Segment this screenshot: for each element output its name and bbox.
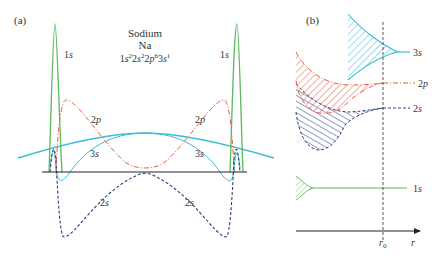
band-label-3s: 3s [413, 47, 422, 58]
element-name: Sodium [128, 27, 163, 39]
band-label-2p: 2p [418, 78, 428, 89]
element-symbol: Na [139, 39, 152, 51]
band-3s [348, 14, 398, 80]
sodium-orbital-diagram: (a) Sodium Na 1s22s22p63s1 1s 1s 2p 2p 3… [0, 0, 442, 262]
band-label-2s: 2s [413, 103, 422, 114]
label-3s-right: 3s [195, 148, 204, 159]
panel-b: (b) 3s 2p 2s 1s r0 r [296, 14, 428, 250]
label-2s-left: 2s [100, 197, 109, 208]
curve-2p [56, 100, 234, 172]
r-axis-label: r [411, 237, 415, 248]
label-2p-right: 2p [195, 114, 205, 125]
panel-b-label: (b) [306, 14, 319, 27]
band-1s [296, 176, 313, 200]
label-1s-right: 1s [220, 49, 229, 60]
label-1s-left: 1s [64, 49, 73, 60]
electron-configuration: 1s22s22p63s1 [120, 52, 171, 64]
panel-a: (a) Sodium Na 1s22s22p63s1 1s 1s 2p 2p 3… [14, 14, 274, 237]
label-2p-left: 2p [91, 114, 101, 125]
label-2s-right: 2s [185, 197, 194, 208]
curve-2s [50, 149, 240, 237]
curve-1s-left [49, 24, 62, 172]
band-label-1s: 1s [413, 183, 422, 194]
label-3s-left: 3s [90, 148, 99, 159]
panel-a-label: (a) [14, 14, 27, 27]
